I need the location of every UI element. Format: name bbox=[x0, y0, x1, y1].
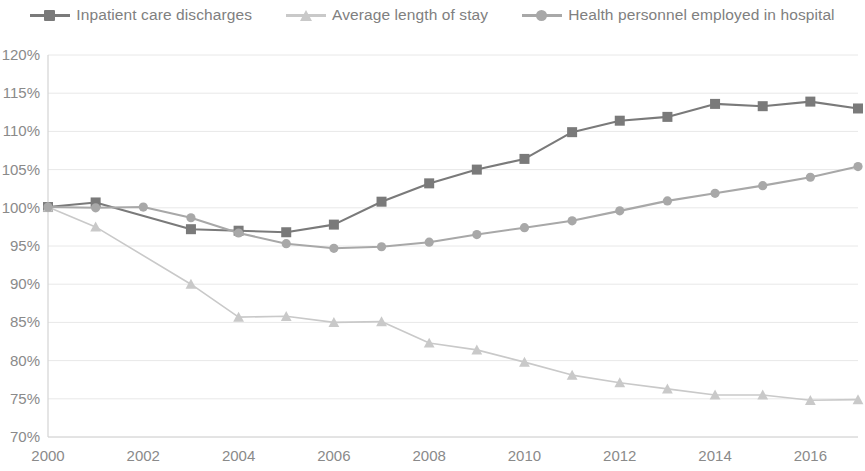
legend-marker-0 bbox=[44, 10, 55, 21]
data-point-marker bbox=[234, 228, 243, 237]
y-axis-tick-label: 95% bbox=[10, 237, 40, 254]
legend-item-inpatient-care-discharges[interactable]: Inpatient care discharges bbox=[30, 6, 252, 24]
data-point-marker bbox=[424, 178, 434, 188]
data-point-marker bbox=[568, 216, 577, 225]
data-point-marker bbox=[377, 197, 387, 207]
x-axis-tick-label: 2014 bbox=[698, 447, 731, 464]
y-axis-tick-label: 90% bbox=[10, 275, 40, 292]
data-point-marker bbox=[472, 165, 482, 175]
data-point-marker bbox=[805, 97, 815, 107]
x-axis-tick-label: 2006 bbox=[317, 447, 350, 464]
data-point-marker bbox=[329, 220, 339, 230]
data-point-marker bbox=[663, 196, 672, 205]
y-axis-tick-label: 70% bbox=[10, 428, 40, 445]
data-point-marker bbox=[377, 242, 386, 251]
series-line-1 bbox=[48, 207, 858, 400]
legend-key-triangle-icon bbox=[286, 8, 326, 22]
data-point-marker bbox=[186, 213, 195, 222]
data-point-marker bbox=[806, 173, 815, 182]
data-point-marker bbox=[710, 99, 720, 109]
legend-marker-2 bbox=[536, 10, 547, 21]
line-chart-svg: 70%75%80%85%90%95%100%105%110%115%120%20… bbox=[0, 30, 865, 471]
chart-container: Inpatient care discharges Average length… bbox=[0, 0, 865, 471]
x-axis-tick-label: 2000 bbox=[31, 447, 64, 464]
data-point-marker bbox=[662, 112, 672, 122]
data-point-marker bbox=[758, 181, 767, 190]
data-point-marker bbox=[567, 127, 577, 137]
legend-label-2: Health personnel employed in hospital bbox=[568, 6, 835, 24]
legend-item-average-length-of-stay[interactable]: Average length of stay bbox=[286, 6, 488, 24]
data-point-marker bbox=[710, 189, 719, 198]
y-axis-tick-label: 110% bbox=[3, 122, 40, 139]
x-axis-tick-label: 2008 bbox=[412, 447, 445, 464]
data-point-marker bbox=[424, 338, 435, 348]
plot-area: 70%75%80%85%90%95%100%105%110%115%120%20… bbox=[0, 30, 865, 471]
data-point-marker bbox=[91, 203, 100, 212]
data-point-marker bbox=[472, 230, 481, 239]
data-point-marker bbox=[281, 227, 291, 237]
y-axis-tick-label: 80% bbox=[10, 352, 40, 369]
chart-legend: Inpatient care discharges Average length… bbox=[0, 0, 865, 30]
data-point-marker bbox=[282, 239, 291, 248]
data-point-marker bbox=[425, 238, 434, 247]
data-point-marker bbox=[853, 162, 862, 171]
data-point-marker bbox=[139, 202, 148, 211]
y-axis-tick-label: 120% bbox=[2, 46, 40, 63]
data-point-marker bbox=[615, 206, 624, 215]
data-point-marker bbox=[519, 154, 529, 164]
legend-item-health-personnel-employed-in-hospital[interactable]: Health personnel employed in hospital bbox=[522, 6, 835, 24]
data-point-marker bbox=[186, 224, 196, 234]
x-axis-tick-label: 2016 bbox=[794, 447, 827, 464]
legend-key-square-icon bbox=[30, 8, 70, 22]
x-axis-tick-label: 2012 bbox=[603, 447, 636, 464]
legend-marker-1 bbox=[300, 10, 312, 21]
legend-label-0: Inpatient care discharges bbox=[76, 6, 252, 24]
data-point-marker bbox=[90, 222, 101, 232]
data-point-marker bbox=[853, 103, 863, 113]
x-axis-tick-label: 2010 bbox=[508, 447, 541, 464]
y-axis-tick-label: 115% bbox=[3, 84, 40, 101]
data-point-marker bbox=[615, 116, 625, 126]
x-axis-tick-label: 2004 bbox=[222, 447, 255, 464]
data-point-marker bbox=[758, 101, 768, 111]
legend-label-1: Average length of stay bbox=[332, 6, 488, 24]
data-point-marker bbox=[43, 202, 52, 211]
y-axis-tick-label: 85% bbox=[10, 313, 40, 330]
x-axis-tick-label: 2002 bbox=[127, 447, 160, 464]
data-point-marker bbox=[329, 244, 338, 253]
y-axis-tick-label: 100% bbox=[2, 199, 40, 216]
data-point-marker bbox=[520, 223, 529, 232]
y-axis-tick-label: 75% bbox=[10, 390, 40, 407]
y-axis-tick-label: 105% bbox=[2, 161, 40, 178]
legend-key-circle-icon bbox=[522, 8, 562, 22]
